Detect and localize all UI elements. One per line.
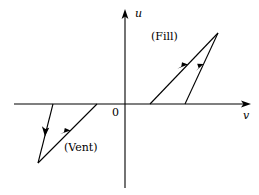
fill-shallow-segment bbox=[150, 33, 218, 104]
u-axis bbox=[122, 9, 129, 188]
vent-steep-arrowhead-icon bbox=[42, 126, 49, 136]
fill-steep-segment bbox=[185, 33, 218, 104]
u-axis-label: u bbox=[135, 8, 142, 19]
vent-branch-label: (Vent) bbox=[64, 142, 98, 153]
vent-branch bbox=[38, 104, 97, 163]
v-axis bbox=[14, 101, 251, 108]
vent-shallow-segment bbox=[38, 104, 97, 163]
v-axis-label: v bbox=[243, 110, 249, 121]
hysteresis-diagram: u v 0 (Fill) (Vent) bbox=[0, 0, 259, 195]
fill-branch-label: (Fill) bbox=[151, 31, 178, 42]
plot-canvas bbox=[0, 0, 259, 195]
origin-label: 0 bbox=[112, 107, 119, 118]
fill-branch bbox=[150, 33, 218, 104]
vent-shallow-arrowhead-icon bbox=[60, 128, 70, 134]
